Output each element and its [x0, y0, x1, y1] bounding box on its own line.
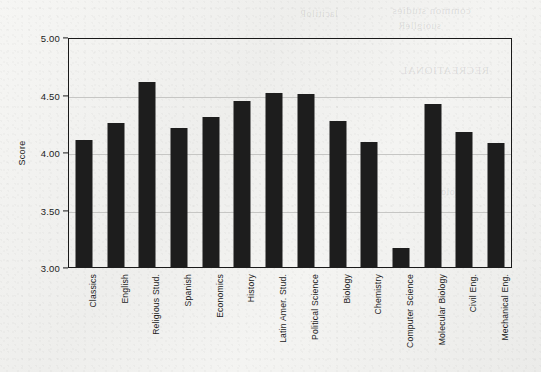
- x-label-slot: Biology: [322, 268, 354, 372]
- x-axis-label: Chemistry: [373, 274, 383, 314]
- x-axis-label: Classics: [88, 274, 98, 308]
- x-axis-label: Economics: [215, 274, 225, 318]
- bar[interactable]: [361, 142, 378, 269]
- bar-slot: [417, 38, 449, 268]
- x-axis-labels: ClassicsEnglishReligious Stud.SpanishEco…: [68, 268, 512, 372]
- x-label-slot: Mechanical Eng.: [480, 268, 512, 372]
- bar[interactable]: [488, 143, 505, 268]
- bar[interactable]: [392, 248, 409, 268]
- x-axis-label: Political Science: [310, 274, 320, 340]
- bar-slot: [100, 38, 132, 268]
- bar-slot: [290, 38, 322, 268]
- bar[interactable]: [424, 104, 441, 268]
- bars-layer: [68, 38, 512, 268]
- bar[interactable]: [234, 101, 251, 268]
- x-axis-label: Mechanical Eng.: [500, 274, 510, 341]
- x-axis-label: Computer Science: [405, 274, 415, 348]
- bar-slot: [163, 38, 195, 268]
- x-label-slot: Latin Amer. Stud.: [258, 268, 290, 372]
- bar-slot: [322, 38, 354, 268]
- bar-chart: Score 3.003.504.004.505.00 ClassicsEngli…: [0, 0, 541, 372]
- x-label-slot: Religious Stud.: [131, 268, 163, 372]
- y-tick-label-4.50: 4.50: [41, 90, 60, 101]
- x-axis-label: Latin Amer. Stud.: [278, 274, 288, 343]
- y-tick-label-4.00: 4.00: [41, 148, 60, 159]
- x-label-slot: Spanish: [163, 268, 195, 372]
- x-axis-label: History: [246, 274, 256, 302]
- x-axis-label: Religious Stud.: [151, 274, 161, 335]
- x-axis-label: Civil Eng.: [468, 274, 478, 312]
- x-axis-label: Spanish: [183, 274, 193, 306]
- y-axis: 3.003.504.004.505.00: [0, 0, 68, 372]
- x-label-slot: Economics: [195, 268, 227, 372]
- x-label-slot: Computer Science: [385, 268, 417, 372]
- x-label-slot: Political Science: [290, 268, 322, 372]
- x-label-slot: Classics: [68, 268, 100, 372]
- bar[interactable]: [75, 140, 92, 268]
- x-label-slot: History: [227, 268, 259, 372]
- x-label-slot: Chemistry: [353, 268, 385, 372]
- y-axis-title: Score: [17, 140, 27, 165]
- bar-slot: [385, 38, 417, 268]
- bar-slot: [227, 38, 259, 268]
- x-axis-label: Molecular Biology: [437, 274, 447, 345]
- x-label-slot: Molecular Biology: [417, 268, 449, 372]
- bar-slot: [353, 38, 385, 268]
- bar-slot: [480, 38, 512, 268]
- bar[interactable]: [329, 121, 346, 268]
- bar[interactable]: [456, 132, 473, 268]
- bar-slot: [195, 38, 227, 268]
- bar-slot: [258, 38, 290, 268]
- x-axis-label: English: [120, 274, 130, 304]
- bar[interactable]: [297, 94, 314, 268]
- bar[interactable]: [107, 123, 124, 268]
- x-axis-label: Biology: [342, 274, 352, 304]
- x-label-slot: Civil Eng.: [449, 268, 481, 372]
- bar-slot: [449, 38, 481, 268]
- y-tick-label-5.00: 5.00: [41, 33, 60, 44]
- bar[interactable]: [202, 117, 219, 268]
- bar[interactable]: [266, 93, 283, 268]
- x-label-slot: English: [100, 268, 132, 372]
- bar-slot: [131, 38, 163, 268]
- y-tick-label-3.00: 3.00: [41, 263, 60, 274]
- bar[interactable]: [170, 128, 187, 268]
- bar-slot: [68, 38, 100, 268]
- y-tick-label-3.50: 3.50: [41, 205, 60, 216]
- bar[interactable]: [139, 82, 156, 268]
